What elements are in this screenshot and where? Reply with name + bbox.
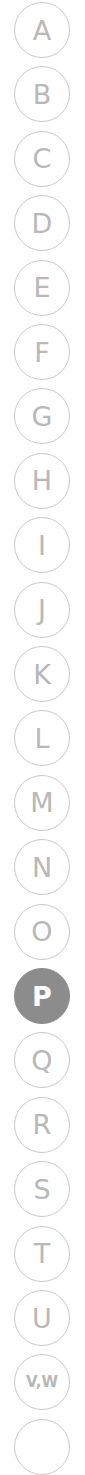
index-letter-m[interactable]: M xyxy=(14,775,70,831)
index-letter-d[interactable]: D xyxy=(14,195,70,251)
index-letter-s[interactable]: S xyxy=(14,1161,70,1217)
index-letter-g[interactable]: G xyxy=(14,388,70,444)
index-letter-h[interactable]: H xyxy=(14,453,70,509)
index-letter-q[interactable]: Q xyxy=(14,1032,70,1088)
index-letter-x[interactable] xyxy=(14,1419,70,1475)
index-letter-e[interactable]: E xyxy=(14,260,70,316)
index-letter-j[interactable]: J xyxy=(14,582,70,638)
index-letter-f[interactable]: F xyxy=(14,324,70,380)
index-letter-k[interactable]: K xyxy=(14,646,70,702)
index-letter-v-w[interactable]: V,W xyxy=(14,1354,70,1410)
index-letter-b[interactable]: B xyxy=(14,66,70,122)
index-letter-u[interactable]: U xyxy=(14,1290,70,1346)
index-letter-c[interactable]: C xyxy=(14,131,70,187)
index-letter-r[interactable]: R xyxy=(14,1097,70,1153)
index-letter-i[interactable]: I xyxy=(14,517,70,573)
index-letter-n[interactable]: N xyxy=(14,839,70,895)
index-letter-o[interactable]: O xyxy=(14,904,70,960)
index-letter-p[interactable]: P xyxy=(14,968,70,1024)
index-letter-a[interactable]: A xyxy=(14,2,70,58)
index-letter-t[interactable]: T xyxy=(14,1226,70,1282)
index-letter-l[interactable]: L xyxy=(14,710,70,766)
